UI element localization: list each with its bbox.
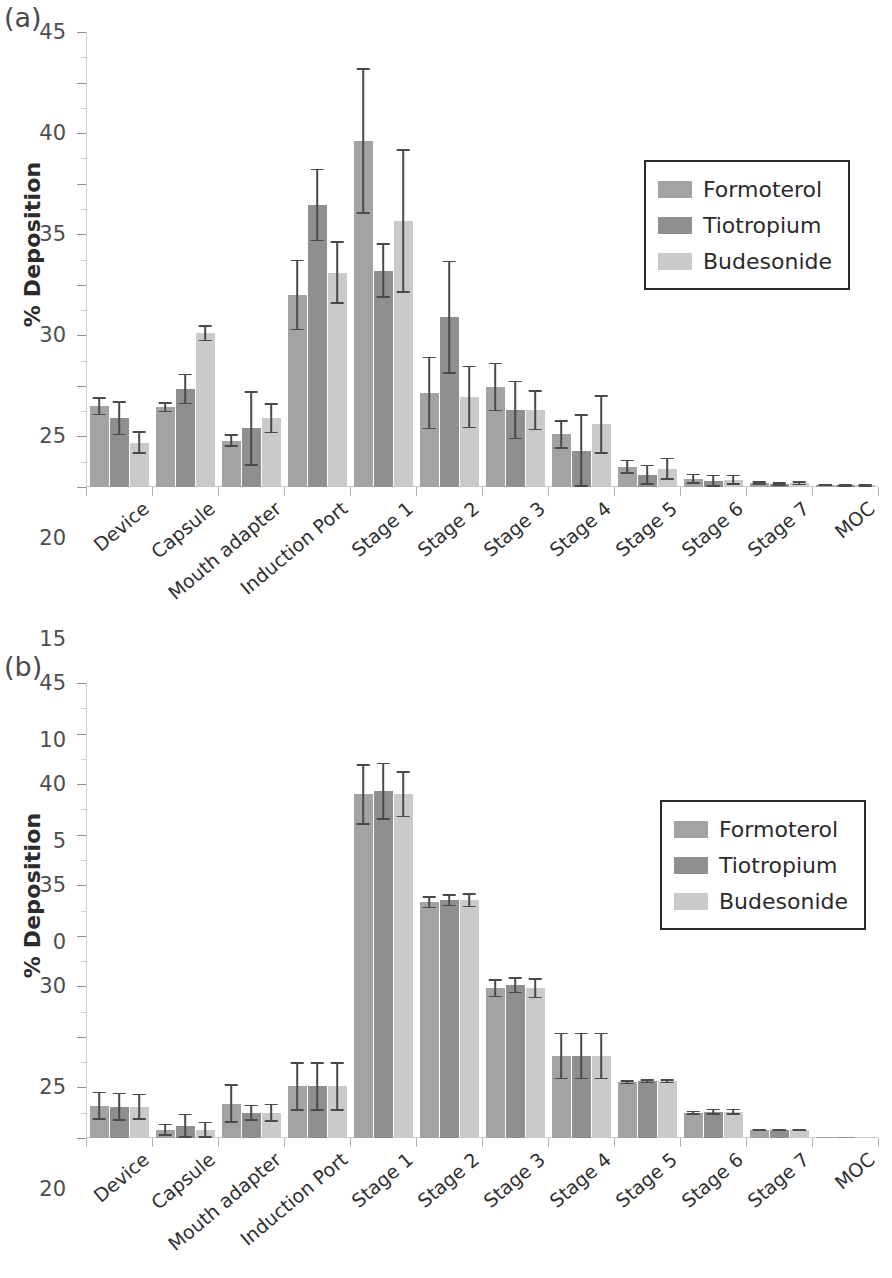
- x-tick-label: Stage 1: [347, 497, 417, 561]
- bar-fill: [704, 1112, 723, 1138]
- y-tick: 10: [77, 386, 86, 387]
- error-bar: [250, 1105, 252, 1121]
- bar-group: [152, 683, 218, 1138]
- bar: [420, 902, 439, 1138]
- bar: [658, 1081, 677, 1138]
- bar: [262, 418, 281, 487]
- bar: [836, 1137, 855, 1138]
- bar: [856, 485, 875, 487]
- bar: [836, 485, 855, 487]
- error-bar: [666, 1079, 668, 1083]
- error-bar: [758, 481, 760, 485]
- x-tick-label: Stage 2: [413, 1148, 483, 1212]
- bar: [176, 389, 195, 487]
- bar-group: [152, 32, 218, 487]
- bar: [288, 1086, 307, 1138]
- y-tick: 45: [77, 32, 86, 33]
- bar: [242, 1113, 261, 1138]
- bar: [328, 1086, 347, 1138]
- bar: [790, 483, 809, 487]
- legend-swatch-formoterol: [658, 181, 692, 198]
- x-tick-label: Mouth adapter: [164, 497, 285, 604]
- bar: [856, 1137, 875, 1138]
- x-tick-label: Stage 6: [677, 1148, 747, 1212]
- bar: [684, 1113, 703, 1138]
- bar: [440, 900, 459, 1138]
- bar: [394, 794, 413, 1138]
- y-tick: 35: [77, 133, 86, 134]
- error-bar: [138, 1094, 140, 1120]
- bar-group: [482, 683, 548, 1138]
- x-tick-label: Stage 4: [545, 497, 615, 561]
- bar: [328, 273, 347, 487]
- error-bar: [580, 1033, 582, 1080]
- x-tick-label: Mouth adapter: [164, 1148, 285, 1255]
- bar: [90, 1106, 109, 1138]
- error-bar: [270, 403, 272, 433]
- y-tick: 15: [77, 986, 86, 987]
- error-bar: [184, 374, 186, 404]
- bar: [704, 1112, 723, 1138]
- bar: [374, 271, 393, 487]
- bar: [486, 988, 505, 1138]
- panel-b-legend: Formoterol Tiotropium Budesonide: [660, 800, 866, 930]
- y-tick: 15: [77, 335, 86, 336]
- x-tick: [482, 487, 483, 496]
- error-bar: [382, 763, 384, 820]
- y-tick: 20: [77, 285, 86, 286]
- y-tick: 25: [77, 234, 86, 235]
- legend-label-budesonide: Budesonide: [719, 889, 848, 914]
- bar: [222, 441, 241, 488]
- bar: [354, 141, 373, 487]
- bar: [638, 1081, 657, 1138]
- legend-item-budesonide: Budesonide: [658, 243, 832, 279]
- legend-swatch-formoterol: [674, 821, 708, 838]
- error-bar: [494, 979, 496, 997]
- error-bar: [250, 391, 252, 466]
- error-bar: [646, 1079, 648, 1083]
- bar-fill: [790, 1130, 809, 1138]
- y-tick-label: 25: [39, 1075, 66, 1099]
- x-tick-label: Stage 3: [479, 1148, 549, 1212]
- x-tick: [152, 487, 153, 496]
- error-bar: [382, 243, 384, 298]
- y-tick: 25: [77, 885, 86, 886]
- x-tick: [152, 1138, 153, 1147]
- x-tick-label: Stage 2: [413, 497, 483, 561]
- y-tick: 0: [77, 1138, 86, 1139]
- bar-fill: [156, 407, 175, 487]
- bar: [440, 317, 459, 487]
- x-tick: [86, 487, 87, 496]
- legend-item-formoterol: Formoterol: [674, 811, 848, 847]
- x-tick-label: MOC: [830, 497, 878, 543]
- bar: [196, 1130, 215, 1138]
- y-tick: 10: [77, 1037, 86, 1038]
- y-tick-label: 40: [39, 772, 66, 796]
- bar: [288, 295, 307, 487]
- legend-swatch-budesonide: [658, 253, 692, 270]
- error-bar: [184, 1114, 186, 1138]
- bar: [262, 1113, 281, 1138]
- bar-fill: [90, 406, 109, 487]
- bar-fill: [486, 988, 505, 1138]
- x-tick: [680, 487, 681, 496]
- y-tick-label: 45: [39, 671, 66, 695]
- bar-fill: [222, 441, 241, 488]
- x-tick: [746, 487, 747, 496]
- x-tick: [812, 1138, 813, 1147]
- legend-item-tiotropium: Tiotropium: [674, 847, 848, 883]
- y-tick-label: 20: [39, 1177, 66, 1201]
- bar: [354, 794, 373, 1138]
- error-bar: [448, 894, 450, 906]
- bar: [110, 1107, 129, 1138]
- bar: [638, 475, 657, 487]
- bar: [460, 900, 479, 1138]
- legend-item-formoterol: Formoterol: [658, 171, 832, 207]
- bar: [592, 1056, 611, 1138]
- y-tick-label: 20: [39, 526, 66, 550]
- bar: [460, 397, 479, 487]
- bar-group: [86, 683, 152, 1138]
- y-tick-label: 35: [39, 873, 66, 897]
- legend-swatch-tiotropium: [674, 857, 708, 874]
- error-bar: [712, 1109, 714, 1115]
